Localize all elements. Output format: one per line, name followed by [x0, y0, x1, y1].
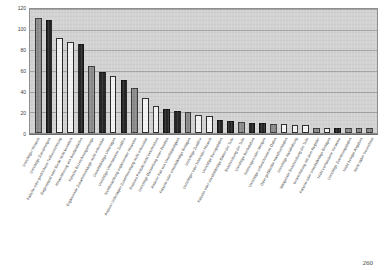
- bar: [78, 44, 85, 133]
- y-axis: 020406080100120: [0, 8, 29, 134]
- bar: [302, 125, 309, 133]
- bar: [110, 76, 117, 133]
- bar-slot: [172, 9, 183, 133]
- bar: [56, 38, 63, 133]
- bar: [131, 88, 138, 133]
- bar-slot: [204, 9, 215, 133]
- bar-slot: [54, 9, 65, 133]
- x-axis-line: [29, 134, 378, 135]
- bar: [121, 80, 128, 133]
- plot-area: [29, 8, 378, 134]
- bar-slot: [300, 9, 311, 133]
- bar-slot: [257, 9, 268, 133]
- bar: [345, 128, 352, 133]
- bar: [142, 98, 149, 133]
- y-axis-tick-label: 80: [20, 48, 26, 53]
- bar: [313, 128, 320, 133]
- bar-slot: [247, 9, 258, 133]
- figure: 020406080100120 Unrichtiger HinweisUnric…: [0, 0, 384, 270]
- bar: [206, 116, 213, 133]
- bar-slot: [76, 9, 87, 133]
- bar: [249, 123, 256, 133]
- bar: [270, 124, 277, 133]
- bar: [334, 128, 341, 133]
- bar-slot: [97, 9, 108, 133]
- y-axis-tick-label: 60: [20, 69, 26, 74]
- bar-slot: [129, 9, 140, 133]
- y-axis-tick-label: 100: [18, 27, 26, 32]
- bar: [217, 120, 224, 133]
- bar-slot: [193, 9, 204, 133]
- bar-slot: [119, 9, 130, 133]
- bar: [99, 72, 106, 133]
- bar-slot: [161, 9, 172, 133]
- bar-slot: [311, 9, 322, 133]
- bar: [46, 20, 53, 133]
- bar-series: [30, 9, 377, 133]
- bar-slot: [33, 9, 44, 133]
- bar: [238, 122, 245, 133]
- bar: [163, 109, 170, 133]
- bar-slot: [279, 9, 290, 133]
- bar: [259, 123, 266, 133]
- y-axis-tick-label: 20: [20, 111, 26, 116]
- y-axis-tick-label: 120: [18, 6, 26, 11]
- x-axis-category-labels: Unrichtiger HinweisUnrichtige Zuordnunge…: [29, 136, 378, 226]
- bar: [35, 18, 42, 133]
- page-number: 260: [363, 259, 374, 267]
- bar: [281, 124, 288, 133]
- bar-slot: [290, 9, 301, 133]
- bar: [153, 106, 160, 133]
- bar: [292, 125, 299, 133]
- bar-slot: [343, 9, 354, 133]
- bar-slot: [332, 9, 343, 133]
- bar: [67, 42, 74, 133]
- bar: [185, 112, 192, 133]
- bar-slot: [215, 9, 226, 133]
- bar-slot: [225, 9, 236, 133]
- label-slot: Nicht näher bezeichnet: [365, 136, 376, 226]
- bar-slot: [354, 9, 365, 133]
- bar-slot: [86, 9, 97, 133]
- bar: [366, 128, 373, 133]
- bar-slot: [322, 9, 333, 133]
- bar-slot: [65, 9, 76, 133]
- y-axis-tick-label: 0: [23, 132, 26, 137]
- bar: [356, 128, 363, 133]
- bar-slot: [268, 9, 279, 133]
- bar-slot: [44, 9, 55, 133]
- bar: [88, 66, 95, 133]
- bar-slot: [236, 9, 247, 133]
- bar-slot: [183, 9, 194, 133]
- bar: [227, 121, 234, 133]
- y-axis-tick-label: 40: [20, 90, 26, 95]
- bar-slot: [364, 9, 375, 133]
- bar-slot: [151, 9, 162, 133]
- bar-slot: [108, 9, 119, 133]
- bar-slot: [140, 9, 151, 133]
- bar: [174, 111, 181, 133]
- bar: [324, 128, 331, 133]
- bar: [195, 115, 202, 133]
